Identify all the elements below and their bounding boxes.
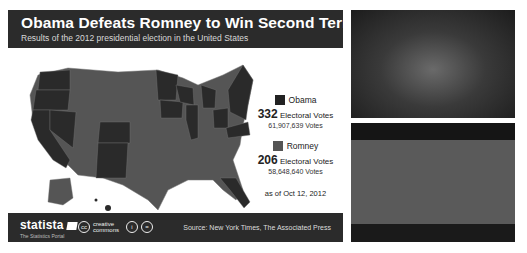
state-washington (38, 70, 70, 90)
state-florida (220, 178, 250, 208)
source-note: Source: New York Times, The Associated P… (183, 224, 331, 231)
candidates-greeting-photo (351, 123, 515, 242)
us-election-map (8, 50, 258, 220)
cc-label: creative commons (93, 221, 123, 233)
obama-ev-label: Electoral Votes (280, 111, 333, 120)
statista-logo-text: statista (20, 218, 64, 232)
romney-electoral: 206 Electoral Votes (248, 153, 343, 167)
romney-ev-count: 206 (258, 153, 278, 167)
infographic-footer: statista The Statistics Portal cc creati… (8, 213, 343, 242)
obama-ev-count: 332 (258, 107, 278, 121)
state-hawaii-islands (95, 199, 98, 202)
legend: Obama 332 Electoral Votes 61,907,639 Vot… (248, 95, 343, 198)
obama-electoral: 332 Electoral Votes (248, 107, 343, 121)
romney-popular-votes: 58,648,640 Votes (248, 168, 343, 175)
statista-logo[interactable]: statista (20, 218, 77, 232)
legend-obama-name: Obama (289, 95, 317, 105)
cc-icon: cc (78, 221, 90, 233)
infographic-subtitle: Results of the 2012 presidential electio… (21, 33, 248, 43)
legend-obama: Obama (248, 95, 343, 105)
state-iowa (160, 100, 183, 118)
state-hawaii (105, 205, 111, 211)
as-of-date: as of Oct 12, 2012 (248, 189, 343, 198)
attribution-icon: i (126, 221, 138, 233)
infographic-header: Obama Defeats Romney to Win Second Term … (8, 10, 343, 48)
obama-popular-votes: 61,907,639 Votes (248, 122, 343, 129)
noderivs-icon: = (141, 221, 153, 233)
state-oregon (33, 90, 70, 110)
romney-swatch (273, 141, 283, 151)
legend-romney: Romney (248, 141, 343, 151)
state-alaska (48, 178, 73, 205)
state-colorado (98, 122, 130, 143)
state-new-mexico (96, 143, 128, 178)
legend-romney-name: Romney (287, 141, 319, 151)
romney-ev-label: Electoral Votes (280, 157, 333, 166)
statista-tagline: The Statistics Portal (20, 233, 64, 239)
obama-swatch (275, 95, 285, 105)
state-minnesota (156, 70, 178, 100)
infographic-title: Obama Defeats Romney to Win Second Term (21, 14, 356, 32)
statista-logo-icon (66, 222, 77, 230)
creative-commons-badge[interactable]: cc creative commons i = (78, 221, 153, 233)
state-ohio (213, 108, 228, 128)
victory-rally-photo (351, 10, 515, 118)
election-infographic: Obama Defeats Romney to Win Second Term … (8, 10, 343, 242)
